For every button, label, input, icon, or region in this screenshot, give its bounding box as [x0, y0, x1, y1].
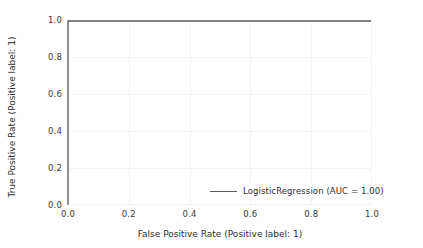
legend: LogisticRegression (AUC = 1.00): [208, 185, 386, 197]
legend-label-logisticregression: LogisticRegression (AUC = 1.00): [243, 186, 384, 196]
y-tick-label-0.0: 0.0: [36, 200, 62, 210]
plot-area: [68, 20, 372, 205]
roc-curve-figure: True Positive Rate (Positive label: 1) 1…: [0, 0, 423, 248]
x-tick-label-0.8: 0.8: [304, 209, 318, 219]
x-tick-label-0.6: 0.6: [243, 209, 257, 219]
legend-line-swatch: [210, 191, 237, 192]
x-tick-label-0.2: 0.2: [122, 209, 136, 219]
y-axis-label: True Positive Rate (Positive label: 1): [7, 25, 17, 210]
x-tick-label-0.0: 0.0: [61, 209, 75, 219]
y-tick-label-0.8: 0.8: [36, 52, 62, 62]
x-tick-label-1.0: 1.0: [365, 209, 379, 219]
y-tick-label-1.0: 1.0: [36, 15, 62, 25]
y-tick-label-0.2: 0.2: [36, 163, 62, 173]
y-tick-label-0.4: 0.4: [36, 126, 62, 136]
y-tick-label-0.6: 0.6: [36, 89, 62, 99]
x-tick-label-0.4: 0.4: [183, 209, 197, 219]
roc-curve-line: [68, 20, 372, 205]
x-axis-label: False Positive Rate (Positive label: 1): [68, 229, 372, 239]
